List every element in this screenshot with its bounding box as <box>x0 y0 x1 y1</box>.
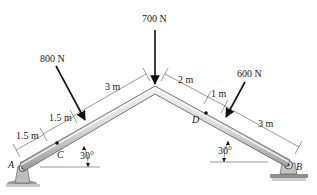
load-700n-label: 700 N <box>142 13 167 24</box>
angle-right-label: 30° <box>218 145 232 156</box>
label-c: C <box>57 149 64 160</box>
dim-right-2: 1 m <box>211 88 227 99</box>
label-a: A <box>7 159 15 170</box>
load-600n-label: 600 N <box>237 68 262 79</box>
dim-right-3: 3 m <box>258 118 274 129</box>
load-800n: 800 N <box>40 53 85 120</box>
dim-left-1: 1.5 m <box>16 130 39 141</box>
point-c-marker <box>55 141 59 145</box>
load-800n-label: 800 N <box>40 53 65 64</box>
label-b: B <box>296 161 302 172</box>
point-d-marker <box>204 111 208 115</box>
angle-left-label: 30° <box>80 150 94 161</box>
dim-right-1: 2 m <box>178 74 194 85</box>
pin-support-b <box>270 161 308 181</box>
dim-left-3: 3 m <box>105 81 121 92</box>
dim-left-2: 1.5 m <box>49 112 72 123</box>
label-d: D <box>191 114 200 125</box>
frame-diagram: C D A B 700 N 800 N 600 N 1.5 m 1.5 m 3 … <box>0 0 317 195</box>
